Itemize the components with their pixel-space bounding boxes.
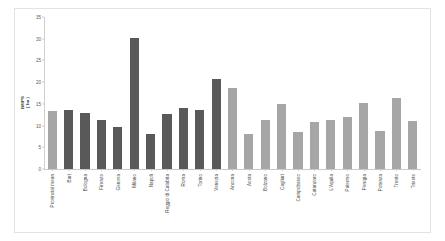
- bar-slot: Napoli: [142, 17, 158, 169]
- bar: [64, 110, 73, 169]
- x-axis-tick-label: Aosta: [246, 174, 251, 186]
- x-axis-tick-mark: [331, 169, 332, 171]
- bar-slot: Torino: [192, 17, 208, 169]
- x-axis-tick-mark: [151, 169, 152, 171]
- x-axis-tick-label: Bari: [66, 174, 71, 182]
- x-axis-tick-mark: [167, 169, 168, 171]
- x-axis-tick-label: Palermo: [345, 174, 350, 191]
- plot-area: 05101520253035 Provincial meanBariBologn…: [44, 17, 421, 169]
- x-axis-tick-mark: [52, 169, 53, 171]
- bar-slot: Genova: [110, 17, 126, 169]
- bar-slot: Catanzaro: [306, 17, 322, 169]
- bar: [392, 98, 401, 169]
- bar: [261, 120, 270, 170]
- x-axis-tick-label: Ancona: [230, 174, 235, 190]
- x-axis-tick-mark: [380, 169, 381, 171]
- x-axis-tick-label: Trento: [394, 174, 399, 187]
- x-axis-tick-mark: [183, 169, 184, 171]
- x-axis-tick-mark: [232, 169, 233, 171]
- y-axis-tick-label: 30: [36, 36, 41, 41]
- bar-series: Provincial meanBariBolognaFirenzeGenovaM…: [44, 17, 421, 169]
- bar: [130, 38, 139, 169]
- x-axis-tick-mark: [101, 169, 102, 171]
- x-axis-tick-label: Firenze: [99, 174, 104, 190]
- x-axis-tick-label: Provincial mean: [50, 174, 55, 207]
- bar: [244, 134, 253, 169]
- y-axis-title-line2: ( ha ): [26, 96, 31, 107]
- y-axis-tick-label: 20: [36, 80, 41, 85]
- y-axis-tick-label: 25: [36, 58, 41, 63]
- bar-slot: Trieste: [405, 17, 421, 169]
- x-axis-tick-mark: [134, 169, 135, 171]
- bar-slot: Provincial mean: [44, 17, 60, 169]
- x-axis-tick-mark: [249, 169, 250, 171]
- bar: [162, 114, 171, 169]
- bar: [293, 132, 302, 169]
- x-axis-tick-label: Roma: [181, 174, 186, 186]
- y-axis-tick-label: 15: [36, 101, 41, 106]
- x-axis-tick-mark: [69, 169, 70, 171]
- x-axis-tick-label: Milano: [132, 174, 137, 188]
- bar: [179, 108, 188, 169]
- x-axis-tick-label: L'Aquila: [328, 174, 333, 191]
- x-axis-tick-mark: [265, 169, 266, 171]
- x-axis-tick-label: Catanzaro: [312, 174, 317, 196]
- bar: [228, 88, 237, 169]
- bar-slot: Reggio di Calabria: [159, 17, 175, 169]
- bar: [195, 110, 204, 169]
- x-axis-tick-label: Campobasso: [296, 174, 301, 202]
- bar: [310, 122, 319, 169]
- bar: [277, 104, 286, 169]
- x-axis-tick-mark: [216, 169, 217, 171]
- bar: [48, 111, 57, 169]
- bar-slot: Bari: [60, 17, 76, 169]
- x-axis-tick-label: Trieste: [410, 174, 415, 188]
- bar-slot: Firenze: [93, 17, 109, 169]
- x-axis-tick-mark: [347, 169, 348, 171]
- x-axis-tick-mark: [85, 169, 86, 171]
- x-axis-tick-mark: [314, 169, 315, 171]
- bar-slot: Palermo: [339, 17, 355, 169]
- bar: [113, 127, 122, 169]
- bar: [80, 113, 89, 169]
- x-axis-tick-mark: [200, 169, 201, 171]
- bar-slot: Perugia: [355, 17, 371, 169]
- bar: [343, 117, 352, 169]
- x-axis-tick-label: Bologna: [82, 174, 87, 191]
- bar: [359, 103, 368, 169]
- x-axis-tick-mark: [364, 169, 365, 171]
- bar-slot: Cagliari: [273, 17, 289, 169]
- x-axis-tick-label: Napoli: [148, 174, 153, 187]
- bar-slot: Potenza: [372, 17, 388, 169]
- bar: [375, 131, 384, 169]
- x-axis-tick-label: Venezia: [214, 174, 219, 191]
- x-axis-tick-label: Genova: [115, 174, 120, 190]
- y-axis-tick-label: 35: [36, 15, 41, 20]
- bar-slot: Trento: [388, 17, 404, 169]
- bar-slot: Aosta: [241, 17, 257, 169]
- chart-figure: BMPS ( ha ) 05101520253035 Provincial me…: [0, 0, 445, 241]
- bar-slot: Bologna: [77, 17, 93, 169]
- y-axis-tick-label: 10: [36, 123, 41, 128]
- bar-slot: Milano: [126, 17, 142, 169]
- bar-slot: L'Aquila: [323, 17, 339, 169]
- x-axis-tick-mark: [413, 169, 414, 171]
- x-axis-tick-label: Torino: [197, 174, 202, 187]
- y-axis-title: BMPS ( ha ): [19, 82, 33, 122]
- x-axis-tick-mark: [396, 169, 397, 171]
- x-axis-tick-mark: [282, 169, 283, 171]
- bar: [97, 120, 106, 169]
- x-axis-tick-label: Potenza: [378, 174, 383, 191]
- bar: [212, 79, 221, 169]
- x-axis-tick-label: Bolzano: [263, 174, 268, 191]
- x-axis-tick-label: Cagliari: [279, 174, 284, 190]
- bar: [326, 120, 335, 169]
- x-axis-tick-mark: [118, 169, 119, 171]
- bar-slot: Bolzano: [257, 17, 273, 169]
- bar-slot: Roma: [175, 17, 191, 169]
- bar-slot: Campobasso: [290, 17, 306, 169]
- bar-slot: Venezia: [208, 17, 224, 169]
- bar-slot: Ancona: [224, 17, 240, 169]
- bar: [146, 134, 155, 169]
- x-axis-tick-label: Perugia: [361, 174, 366, 190]
